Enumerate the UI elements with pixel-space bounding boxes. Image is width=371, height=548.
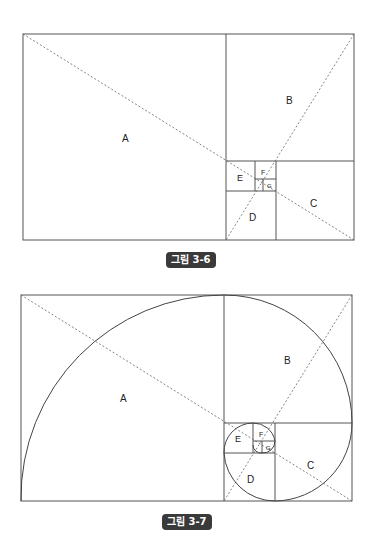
- label-g: G: [266, 445, 271, 451]
- caption-figure-3-7: 그림 3-7: [162, 514, 212, 530]
- label-e: E: [235, 434, 241, 444]
- label-c: C: [307, 460, 314, 471]
- golden-spiral: [21, 295, 352, 501]
- label-a: A: [120, 393, 127, 404]
- label-b: B: [284, 355, 291, 366]
- label-f: F: [259, 431, 263, 438]
- golden-spiral-figure-2: A B C D E F G: [0, 0, 371, 548]
- label-d: D: [247, 474, 254, 485]
